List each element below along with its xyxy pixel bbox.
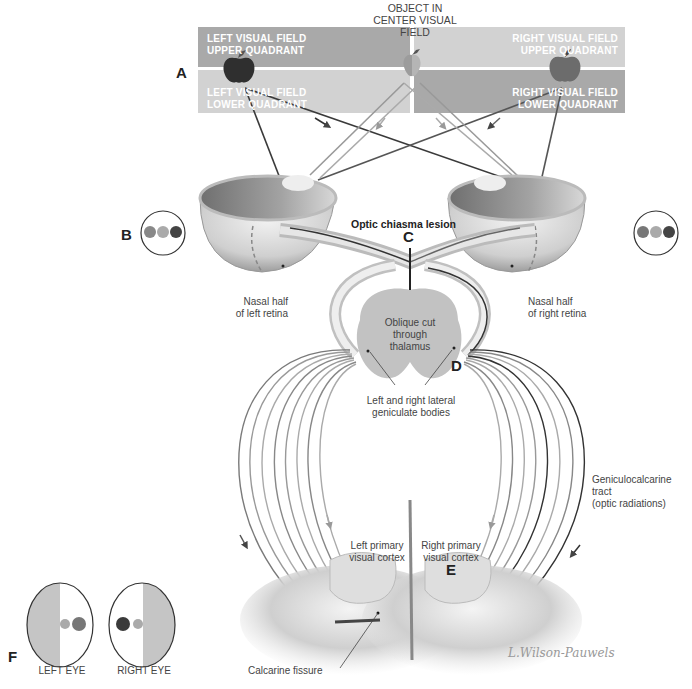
right-upper-quadrant-label: RIGHT VISUAL FIELDUPPER QUADRANT [500,33,618,57]
thalamus-label: Oblique cutthroughthalamus [370,317,450,353]
marker-a: A [176,64,187,81]
right-lower-quadrant-label: RIGHT VISUAL FIELDLOWER QUADRANT [500,87,618,111]
left-eye-label: LEFT EYE [32,665,92,677]
artist-signature: L.Wilson-Pauwels [508,646,615,660]
left-eye-inset-b [141,211,185,255]
right-eye-inset-b [634,211,678,255]
marker-c: C [403,228,414,245]
nasal-right-label: Nasal halfof right retina [528,296,608,320]
left-eyeball [200,175,336,272]
right-eyeball [448,175,585,272]
lesion-label: Optic chiasma lesion [351,218,456,230]
calcarine-label: Calcarine fissure [248,665,322,677]
left-lower-quadrant-label: LEFT VISUAL FIELDLOWER QUADRANT [207,87,307,111]
left-eye-field-f [25,580,96,670]
marker-d: D [451,357,462,374]
right-cortex-label: Right primaryvisual cortex [418,540,484,564]
tract-label: Geniculocalcarinetract(optic radiations) [592,474,672,510]
lgb-label: Left and right lateralgeniculate bodies [355,395,467,419]
center-field-title: OBJECT IN CENTER VISUAL FIELD [360,2,470,38]
marker-f: F [8,648,17,665]
left-cortex-label: Left primaryvisual cortex [345,540,409,564]
nasal-left-label: Nasal halfof left retina [208,296,288,320]
right-eye-field-f [108,580,179,670]
marker-b: B [121,226,132,243]
left-upper-quadrant-label: LEFT VISUAL FIELDUPPER QUADRANT [207,33,306,57]
right-eye-label: RIGHT EYE [112,665,176,677]
